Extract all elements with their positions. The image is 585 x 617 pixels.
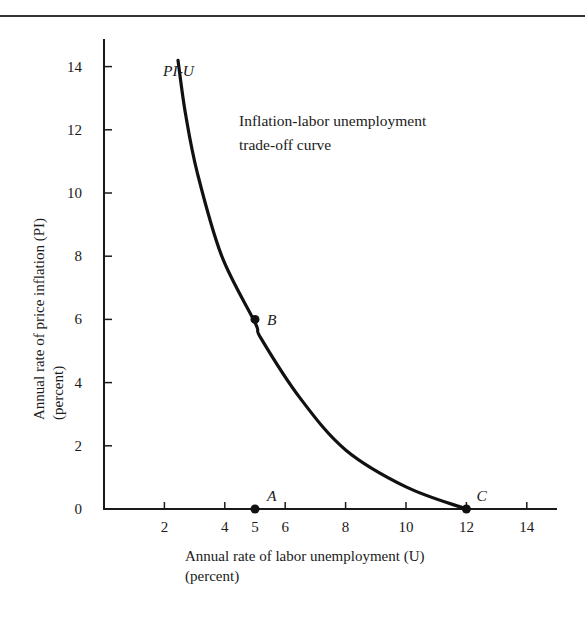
y-tick-label: 10	[67, 185, 82, 201]
x-tick-label: 2	[161, 519, 169, 535]
data-points: ABC	[251, 311, 488, 513]
y-tick-label: 14	[67, 59, 83, 75]
x-tick-label: 10	[399, 519, 414, 535]
annotation-line2: trade-off curve	[239, 136, 331, 153]
point-label-a: A	[266, 487, 277, 504]
x-tick-label: 6	[281, 519, 289, 535]
point-label-b: B	[267, 311, 277, 328]
x-tick-label: 12	[459, 519, 474, 535]
y-tick-label: 6	[75, 311, 83, 327]
point-label-c: C	[476, 487, 487, 504]
y-tick-label: 0	[75, 501, 83, 517]
x-axis-subtitle: (percent)	[185, 568, 239, 585]
x-tick-label: 4	[221, 519, 229, 535]
ticks: 0246810121424568101214	[67, 59, 535, 535]
x-tick-label: 8	[342, 519, 350, 535]
point-c	[462, 505, 471, 514]
curve-label: PI-U	[162, 62, 196, 79]
y-tick-label: 2	[75, 438, 83, 454]
y-tick-label: 8	[75, 248, 83, 264]
y-tick-label: 4	[75, 375, 83, 391]
x-tick-label: 14	[519, 519, 535, 535]
point-a	[251, 505, 260, 514]
point-b	[251, 315, 260, 324]
y-axis-subtitle: (percent)	[50, 366, 67, 420]
x-axis-title: Annual rate of labor unemployment (U)	[185, 548, 425, 565]
chart: 0246810121424568101214 ABC PI-U Inflatio…	[0, 0, 585, 617]
y-axis-title: Annual rate of price inflation (PI)	[31, 218, 48, 420]
annotation-line1: Inflation-labor unemployment	[239, 112, 427, 129]
y-tick-label: 12	[67, 122, 82, 138]
x-tick-label: 5	[251, 519, 259, 535]
axes	[103, 39, 557, 510]
